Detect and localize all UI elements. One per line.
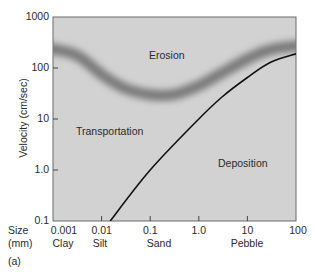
x-tick-label: 10	[242, 225, 254, 236]
size-class-sand: Sand	[147, 238, 172, 249]
x-axis-label-line1: Size	[8, 225, 28, 236]
x-axis-label-line2: (mm)	[8, 238, 33, 249]
y-tick-label: 1.0	[19, 164, 49, 175]
x-tick-label: 1.0	[191, 225, 206, 236]
x-tick-label: 0.1	[143, 225, 158, 236]
size-class-silt: Silt	[93, 238, 108, 249]
region-label-deposition: Deposition	[218, 158, 268, 169]
panel-label: (a)	[8, 256, 21, 267]
x-tick-label: 100	[289, 225, 307, 236]
y-tick-label: 10	[19, 113, 49, 124]
size-class-pebble: Pebble	[231, 238, 264, 249]
x-tick-label: 0.001	[51, 225, 77, 236]
region-label-transportation: Transportation	[76, 126, 143, 137]
y-tick-label: 100	[19, 62, 49, 73]
x-tick-label: 0.01	[91, 225, 111, 236]
y-tick-label: 1000	[19, 11, 49, 22]
region-label-erosion: Erosion	[149, 50, 185, 61]
size-class-clay: Clay	[52, 238, 73, 249]
